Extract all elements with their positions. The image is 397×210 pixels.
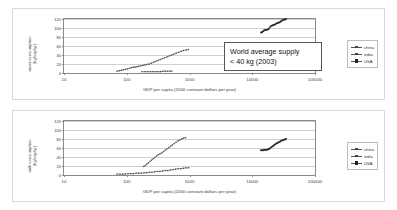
data-point [151,62,152,63]
data-point [188,49,189,50]
legend-item-china[interactable]: china [351,146,374,153]
legend-marker-china-icon [351,147,362,152]
data-point [131,67,132,68]
data-point [144,64,145,65]
data-point [122,173,123,174]
data-point [165,150,166,151]
y-tick-label: 100 [54,128,61,133]
data-point [149,172,150,173]
data-point [158,154,159,155]
data-point [143,166,144,167]
data-point [151,160,152,161]
x-tick-mark [64,175,65,177]
data-point [168,147,169,148]
data-point [116,173,117,174]
x-tick-label: 100000 [308,77,322,82]
data-point [127,68,128,69]
data-point [156,155,157,156]
x-tick-mark [252,175,253,177]
milk-consumption-chart: milk consumption (kg/cap/yr) 02040608010… [12,110,385,202]
data-point [268,28,270,30]
meat-legend: china india USA [347,40,378,68]
data-point [138,173,139,174]
milk-legend: china india USA [347,142,378,170]
data-point [133,67,134,68]
data-point [134,67,135,68]
data-point [173,53,174,54]
y-tick-label: 0 [59,173,61,178]
series-india [141,71,172,73]
series-USA [260,138,287,151]
data-point [176,53,177,54]
data-point [188,167,189,168]
data-point [153,62,154,63]
y-tick-label: 120 [54,119,61,124]
legend-item-india[interactable]: india [351,153,374,160]
x-tick-mark [252,73,253,75]
meat-consumption-chart: meat consumption (kg/cap/yr) 02040608010… [12,8,385,100]
data-point [152,71,153,72]
legend-label-india: india [364,154,373,159]
chart-page: meat consumption (kg/cap/yr) 02040608010… [0,0,397,210]
data-point [171,54,172,55]
y-tick-label: 60 [56,146,61,151]
data-point [138,66,139,67]
legend-item-china[interactable]: china [351,44,374,51]
y-tick-label: 40 [56,155,61,160]
data-point [144,71,145,72]
legend-marker-usa-icon [351,161,362,166]
data-point [142,65,143,66]
data-point [119,70,120,71]
y-tick-label: 80 [56,35,61,40]
legend-item-india[interactable]: india [351,51,374,58]
x-tick-label: 10000 [246,179,258,184]
legend-label-china: china [364,147,374,152]
data-point [285,138,287,140]
data-point [121,70,122,71]
data-point [146,172,147,173]
legend-label-india: india [364,52,373,57]
data-point [140,65,141,66]
x-tick-mark [190,73,191,75]
data-point [162,71,163,72]
annotation-line-1: World average supply [230,47,316,57]
data-point [154,171,155,172]
data-point [178,52,179,53]
data-point [148,162,149,163]
data-point [130,173,131,174]
y-tick-label: 0 [59,71,61,76]
data-point [167,71,168,72]
y-tick-label: 40 [56,53,61,58]
data-point [154,157,155,158]
data-point [133,173,134,174]
data-point [157,60,158,61]
data-point [157,171,158,172]
milk-x-axis-label: GDP per capita (2000 constant dollars pe… [63,189,316,194]
data-point [161,152,162,153]
data-point [149,161,150,162]
data-point [180,51,181,52]
y-tick-label: 100 [54,26,61,31]
data-point [183,137,184,138]
x-tick-label: 10 [62,179,67,184]
y-tick-label: 60 [56,44,61,49]
legend-marker-china-icon [351,45,362,50]
data-point [169,55,170,56]
data-point [116,71,117,72]
legend-item-usa[interactable]: USA [351,160,374,167]
data-point [180,168,181,169]
legend-item-usa[interactable]: USA [351,58,374,65]
x-tick-label: 1000 [185,179,195,184]
data-point [162,170,163,171]
data-point [162,58,163,59]
series-china [116,49,189,72]
data-point [119,173,120,174]
data-point [159,171,160,172]
data-point [125,173,126,174]
x-tick-label: 100 [123,77,130,82]
meat-plot-wrap: 02040608010012010100100010000100000 GDP … [13,9,384,99]
x-tick-label: 1000 [185,77,195,82]
data-point [149,63,150,64]
milk-plot-area: 02040608010012010100100010000100000 [63,120,316,176]
data-point [174,143,175,144]
